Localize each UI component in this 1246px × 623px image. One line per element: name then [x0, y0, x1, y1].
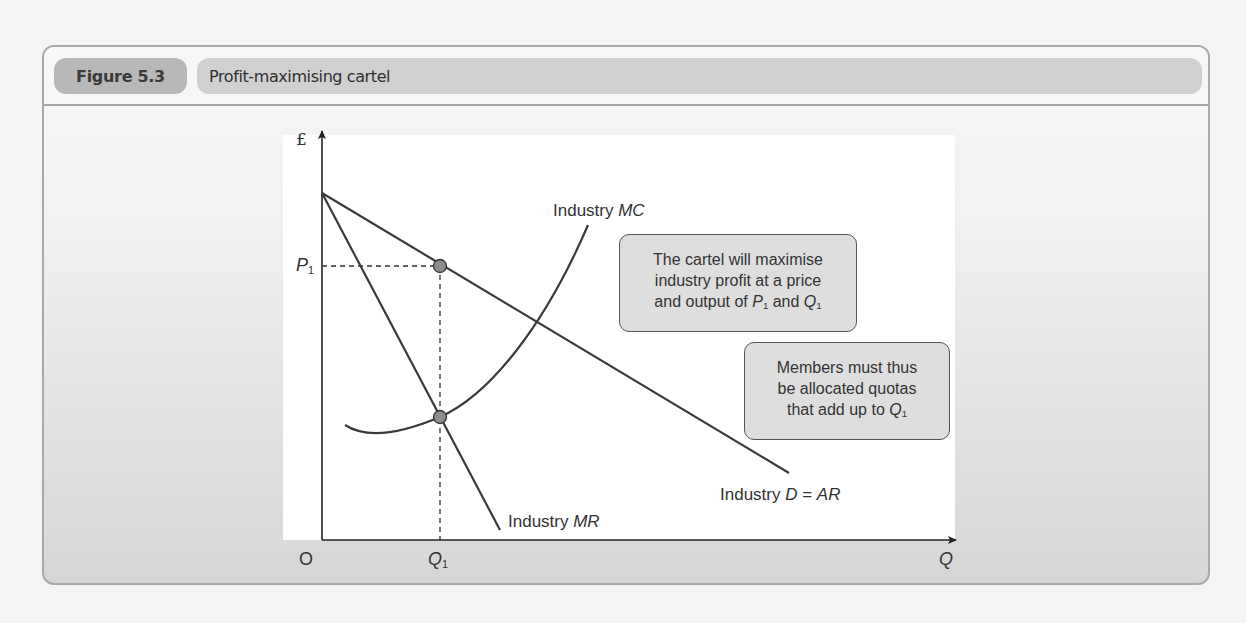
figure-page: Figure 5.3 Profit-maximising cartel £ O [0, 0, 1246, 623]
x-axis-label: Q [939, 550, 953, 568]
mr-italic: MR [573, 512, 599, 531]
mr-curve-label: Industry MR [508, 513, 600, 530]
annotation-1-prefix: and output of [654, 293, 752, 310]
annotation-1-q: Q [804, 293, 816, 310]
pound-sign: £ [296, 129, 307, 149]
annotation-1-p: P [752, 293, 763, 310]
origin-text: O [299, 549, 313, 569]
profit-max-point [434, 260, 447, 273]
mr-curve [322, 193, 500, 530]
annotation-1-line-1: The cartel will maximise [653, 249, 823, 270]
mc-curve [345, 225, 588, 433]
annotation-2-line-2: be allocated quotas [778, 378, 917, 399]
mr-prefix: Industry [508, 512, 573, 531]
annotation-1-line-3: and output of P1 and Q1 [654, 291, 821, 316]
demand-equals: = [797, 485, 816, 504]
demand-curve-label: Industry D = AR [720, 486, 840, 503]
demand-d: D [785, 485, 797, 504]
annotation-2-prefix: that add up to [787, 401, 889, 418]
annotation-2-line-1: Members must thus [777, 357, 917, 378]
mc-italic: MC [618, 201, 644, 220]
mc-prefix: Industry [553, 201, 618, 220]
q1-label: Q1 [428, 550, 448, 569]
p1-main: P [296, 255, 308, 275]
annotation-2-q-sub: 1 [902, 409, 907, 420]
q1-sub: 1 [442, 558, 448, 570]
p1-label: P1 [296, 256, 314, 275]
annotation-quotas: Members must thus be allocated quotas th… [744, 342, 950, 440]
q1-main: Q [428, 549, 442, 569]
mc-curve-label: Industry MC [553, 202, 645, 219]
annotation-1-q-sub: 1 [816, 301, 821, 312]
mc-mr-intersection-point [434, 411, 447, 424]
annotation-1-mid: and [768, 293, 804, 310]
annotation-1-line-2: industry profit at a price [655, 270, 821, 291]
q-axis-text: Q [939, 549, 953, 569]
annotation-2-line-3: that add up to Q1 [787, 399, 907, 424]
origin-label: O [299, 550, 313, 568]
demand-prefix: Industry [720, 485, 785, 504]
p1-sub: 1 [308, 264, 314, 276]
demand-ar: AR [817, 485, 841, 504]
annotation-profit-max: The cartel will maximise industry profit… [619, 234, 857, 332]
annotation-2-q: Q [889, 401, 901, 418]
y-axis-label: £ [296, 131, 307, 148]
